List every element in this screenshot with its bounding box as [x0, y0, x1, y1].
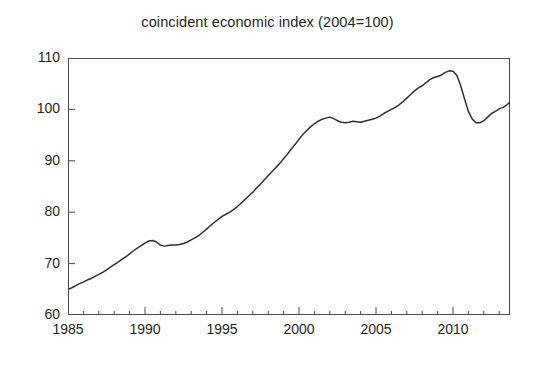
data-series-line [68, 71, 510, 289]
y-axis-tick-label: 110 [26, 49, 60, 65]
x-axis-tick-label: 1990 [115, 321, 175, 337]
y-axis-tick-label: 60 [26, 306, 60, 322]
x-axis-tick-label: 2000 [269, 321, 329, 337]
x-axis-tick-label: 2010 [423, 321, 483, 337]
x-axis-major-ticks [68, 307, 453, 315]
y-axis-ticks [68, 58, 75, 315]
chart-figure: coincident economic index (2004=100) 607… [0, 0, 535, 367]
x-axis-tick-label: 2005 [346, 321, 406, 337]
axis-frame [68, 58, 510, 315]
chart-title: coincident economic index (2004=100) [0, 14, 535, 30]
plot-area [68, 58, 510, 315]
x-axis-tick-label: 1985 [38, 321, 98, 337]
y-axis-tick-label: 90 [26, 152, 60, 168]
y-axis-tick-label: 100 [26, 100, 60, 116]
y-axis-tick-label: 70 [26, 255, 60, 271]
x-axis-tick-label: 1995 [192, 321, 252, 337]
y-axis-tick-label: 80 [26, 203, 60, 219]
line-chart-svg [68, 58, 510, 315]
